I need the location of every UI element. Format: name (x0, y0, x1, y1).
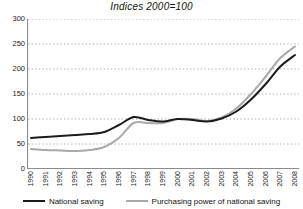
y-axis-tick-label: 50 (3, 140, 25, 148)
x-axis-tick-label: 1999 (159, 171, 166, 187)
x-axis-tick-label: 1993 (71, 171, 78, 187)
y-axis-tick-label: 0 (3, 165, 25, 173)
x-axis-tick-label: 2003 (218, 171, 225, 187)
y-axis-tick-labels: 050100150200250300 (0, 19, 25, 169)
legend-swatch-icon (126, 200, 148, 202)
x-axis-tick-label: 2007 (276, 171, 283, 187)
x-axis-tick-label: 1994 (86, 171, 93, 187)
x-axis-tick-label: 2006 (262, 171, 269, 187)
x-axis-tick-label: 2002 (203, 171, 210, 187)
x-axis-tick-label: 2000 (174, 171, 181, 187)
x-axis-tick-label: 2001 (188, 171, 195, 187)
chart-legend: National savingPurchasing power of natio… (0, 193, 303, 209)
chart-title: Indices 2000=100 (0, 1, 303, 12)
x-axis-tick-label: 2005 (247, 171, 254, 187)
legend-swatch-icon (23, 200, 45, 202)
y-axis-tick-label: 100 (3, 115, 25, 123)
y-axis-tick-label: 150 (3, 90, 25, 98)
legend-entry[interactable]: Purchasing power of national saving (126, 197, 281, 206)
legend-label: Purchasing power of national saving (152, 197, 281, 206)
chart-plot-svg (27, 19, 299, 169)
gridlines (28, 19, 299, 144)
plot-area (27, 19, 299, 169)
x-axis-tick-label: 1998 (144, 171, 151, 187)
x-axis-tick-label: 2008 (291, 171, 298, 187)
x-axis-tick-label: 1990 (27, 171, 34, 187)
legend-entry[interactable]: National saving (23, 197, 104, 206)
x-axis-tick-label: 1992 (56, 171, 63, 187)
chart-figure: Indices 2000=100 050100150200250300 1990… (0, 0, 303, 209)
y-axis-tick-label: 250 (3, 40, 25, 48)
x-axis-tick-label: 1991 (42, 171, 49, 187)
y-axis-tick-label: 300 (3, 15, 25, 23)
x-axis-tick-label: 2004 (232, 171, 239, 187)
legend-label: National saving (49, 197, 104, 206)
series-line (31, 55, 295, 138)
y-axis-tick-label: 200 (3, 65, 25, 73)
x-axis-tick-label: 1996 (115, 171, 122, 187)
x-axis-tick-labels: 1990199119921993199419951996199719981999… (27, 171, 299, 193)
x-axis-tick-label: 1995 (100, 171, 107, 187)
data-series-lines (31, 47, 295, 152)
x-axis-tick-label: 1997 (130, 171, 137, 187)
